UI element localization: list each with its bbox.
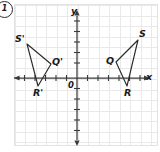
x-axis-label: x <box>146 72 152 82</box>
vertex-label-s: S <box>139 29 146 39</box>
vertex-label-r-prime: R' <box>33 88 43 98</box>
triangle-q-prime-r-prime-s-prime <box>27 44 51 86</box>
vertex-label-q-prime: Q' <box>52 57 63 67</box>
origin-label: 0 <box>68 81 74 90</box>
y-axis-label: y <box>71 6 77 16</box>
vertex-label-s-prime: S' <box>15 34 25 44</box>
figure-container: 1 <box>0 0 160 152</box>
vertex-label-q: Q <box>106 56 114 66</box>
plot-overlay <box>0 0 160 152</box>
vertex-label-r: R <box>124 88 131 98</box>
